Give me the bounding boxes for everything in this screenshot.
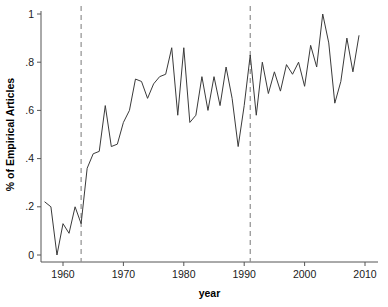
y-axis-tick-label: .2	[25, 200, 34, 212]
x-axis-tick-label: 2010	[353, 268, 377, 280]
x-axis-tick-label: 1960	[51, 268, 75, 280]
chart-container: 0.2.4.6.81196019701980199020002010year% …	[0, 0, 388, 307]
y-axis-tick-label: .6	[25, 104, 34, 116]
y-axis-tick-label: .8	[25, 56, 34, 68]
y-axis-tick-label: 1	[28, 8, 34, 20]
x-axis-tick-label: 1980	[172, 268, 196, 280]
x-axis-tick-label: 1970	[112, 268, 136, 280]
x-axis-tick-label: 2000	[293, 268, 317, 280]
x-axis-tick-label: 1990	[233, 268, 257, 280]
data-line-empirical-articles	[45, 14, 359, 255]
y-axis-tick-label: .4	[25, 152, 34, 164]
y-axis-tick-label: 0	[28, 249, 34, 261]
y-axis-title: % of Empirical Articles	[4, 78, 16, 192]
line-chart: 0.2.4.6.81196019701980199020002010year% …	[0, 0, 388, 307]
x-axis-title: year	[199, 287, 221, 299]
